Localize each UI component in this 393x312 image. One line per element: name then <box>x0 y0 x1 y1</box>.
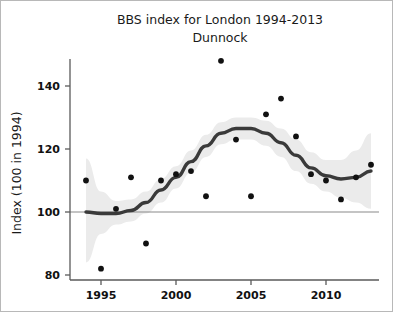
data-point <box>218 58 224 64</box>
data-point <box>338 197 344 203</box>
y-axis-title: Index (100 in 1994) <box>9 111 24 234</box>
data-point <box>143 241 149 247</box>
x-tick-label: 2010 <box>311 289 342 302</box>
y-tick-label: 120 <box>37 143 60 156</box>
data-point <box>113 206 119 212</box>
data-point <box>293 134 299 140</box>
x-tick-label: 2005 <box>236 289 267 302</box>
x-tick-label: 1995 <box>86 289 117 302</box>
confidence-band <box>86 118 371 263</box>
y-tick-label: 140 <box>37 80 60 93</box>
chart-subtitle: Dunnock <box>192 30 248 45</box>
data-point <box>188 168 194 174</box>
data-point <box>98 266 104 272</box>
data-point <box>158 178 164 184</box>
y-tick-marks <box>65 86 70 275</box>
y-tick-label: 80 <box>45 269 61 282</box>
data-point <box>128 174 134 180</box>
data-point <box>368 162 374 168</box>
x-tick-label: 2000 <box>161 289 192 302</box>
data-point <box>83 178 89 184</box>
chart-canvas: BBS index for London 1994-2013 Dunnock I… <box>1 1 393 312</box>
data-point <box>308 171 314 177</box>
data-point <box>173 171 179 177</box>
chart-title: BBS index for London 1994-2013 <box>117 12 323 27</box>
data-point <box>353 174 359 180</box>
y-tick-labels: 80100120140 <box>37 80 60 282</box>
data-point <box>203 193 209 199</box>
data-point <box>233 137 239 143</box>
x-tick-labels: 1995200020052010 <box>86 289 342 302</box>
data-point <box>278 96 284 102</box>
x-tick-marks <box>101 280 326 285</box>
data-point <box>323 178 329 184</box>
figure-frame: BBS index for London 1994-2013 Dunnock I… <box>0 0 393 312</box>
y-tick-label: 100 <box>37 206 60 219</box>
data-point <box>263 111 269 117</box>
data-point <box>248 193 254 199</box>
